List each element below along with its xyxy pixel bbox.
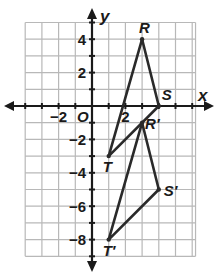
y-tick-label: −8	[69, 231, 86, 248]
y-axis-label: y	[99, 7, 111, 26]
y-tick-label: 2	[78, 64, 86, 81]
y-tick-label: −2	[69, 131, 86, 148]
y-axis-arrow-down-icon	[87, 261, 97, 272]
vertex-point	[140, 121, 144, 125]
vertex-label: T′	[103, 242, 117, 259]
vertex-label: S	[162, 86, 172, 103]
vertex-point	[157, 104, 161, 108]
vertex-point	[140, 37, 144, 41]
y-tick-label: −6	[69, 198, 86, 215]
labels: yxO−2242−2−4−6−8RSTR′S′T′	[50, 7, 209, 259]
y-tick-label: −4	[69, 164, 87, 181]
x-tick-label: 2	[121, 108, 129, 125]
x-axis-arrow-left-icon	[4, 101, 14, 111]
grid-lines	[25, 23, 195, 257]
triangle-rst-prime	[109, 123, 159, 240]
vertex-label: R	[139, 19, 150, 36]
y-tick-label: 4	[78, 31, 87, 48]
vertex-point	[157, 187, 161, 191]
vertex-label: R′	[145, 115, 161, 132]
origin-label: O	[77, 108, 89, 125]
triangle-rst	[109, 39, 159, 156]
x-tick-label: −2	[50, 108, 67, 125]
vertex-label: S′	[164, 182, 179, 199]
x-axis-label: x	[197, 86, 209, 105]
y-axis-arrow-up-icon	[87, 8, 97, 19]
coordinate-plane: yxO−2242−2−4−6−8RSTR′S′T′	[0, 0, 217, 274]
